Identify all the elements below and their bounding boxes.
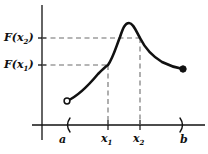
right-endpoint-filled-circle [180,66,186,72]
x-axis-label-x1-subscript: 1 [108,138,113,147]
y-axis-label-fx1-close: ) [28,58,33,71]
x-axis-label-x1: x1 [101,133,112,146]
function-curve [67,23,183,101]
y-axis-label-fx2-close: ) [28,31,33,44]
graph-canvas [0,0,208,154]
x-axis-label-a-base: a [59,133,66,146]
left-endpoint-open-circle [64,98,70,104]
y-axis-label-fx1-base: F(x [4,58,24,71]
x-axis-label-x2-subscript: 2 [140,138,145,147]
function-graph-figure: F(x2) F(x1) a x1 x2 b [0,0,208,154]
y-axis-label-fx2-base: F(x [4,31,24,44]
x-axis-label-b: b [180,134,188,145]
x-axis-label-x2: x2 [133,133,144,146]
x-axis-label-b-base: b [180,133,188,146]
y-axis-label-fx2: F(x2) [4,32,34,45]
x-axis-label-a: a [59,134,66,145]
y-axis-label-fx1: F(x1) [4,59,34,72]
